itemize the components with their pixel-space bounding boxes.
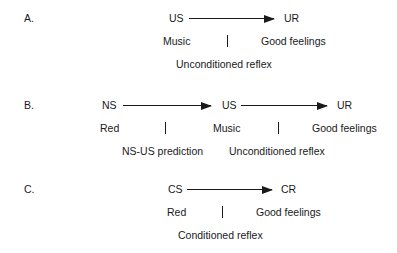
separator-bar [227, 35, 228, 47]
example-music: Music [163, 35, 190, 47]
example-good-feelings: Good feelings [312, 122, 377, 134]
example-red: Red [100, 122, 119, 134]
relation-unconditioned-reflex: Unconditioned reflex [176, 58, 272, 70]
node-ur: UR [337, 99, 352, 111]
panel-label: A. [24, 12, 34, 24]
separator-bar [165, 122, 166, 134]
relation-ns-us-prediction: NS-US prediction [122, 145, 203, 157]
node-us: US [222, 99, 237, 111]
arrow-icon [189, 18, 274, 19]
example-good-feelings: Good feelings [261, 35, 326, 47]
separator-bar [278, 122, 279, 134]
arrow-icon [241, 105, 327, 106]
relation-unconditioned-reflex: Unconditioned reflex [229, 145, 325, 157]
node-ur: UR [284, 12, 299, 24]
example-good-feelings: Good feelings [256, 206, 321, 218]
arrow-icon [123, 105, 211, 106]
node-cs: CS [168, 183, 183, 195]
arrow-icon [187, 189, 272, 190]
separator-bar [222, 206, 223, 218]
example-red: Red [167, 206, 186, 218]
example-music: Music [213, 122, 240, 134]
node-cr: CR [281, 183, 296, 195]
node-us: US [169, 12, 184, 24]
relation-conditioned-reflex: Conditioned reflex [178, 229, 263, 241]
panel-label: C. [24, 183, 35, 195]
node-ns: NS [102, 99, 117, 111]
panel-label: B. [24, 99, 34, 111]
